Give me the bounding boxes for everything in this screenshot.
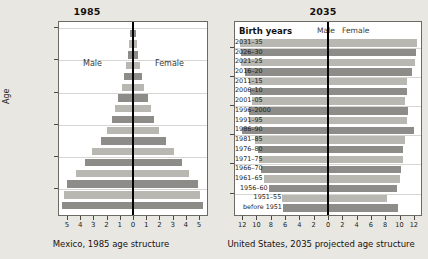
right-y-tick <box>230 193 234 194</box>
bar-female <box>133 202 203 209</box>
right-x-tick <box>271 216 272 220</box>
right-birth-year-label: before 1951 <box>235 204 282 211</box>
right-x-tick <box>400 216 401 220</box>
right-y-tick <box>230 163 234 164</box>
bar-male <box>269 185 328 192</box>
right-x-tick <box>314 216 315 220</box>
right-x-tick <box>371 216 372 220</box>
bar-female <box>133 116 154 123</box>
right-caption: United States, 2035 projected age struct… <box>214 239 428 249</box>
bar-male <box>107 127 133 134</box>
left-caption: Mexico, 1985 age structure <box>4 239 218 249</box>
left-x-tick-label: 5 <box>189 221 209 229</box>
right-x-tick <box>414 216 415 220</box>
bar-female <box>328 78 407 85</box>
bar-male <box>64 191 133 198</box>
bar-female <box>328 175 400 182</box>
right-birth-year-label: 2006–10 <box>235 87 249 94</box>
right-x-tick <box>285 216 286 220</box>
right-x-tick-label: 12 <box>404 221 424 229</box>
bar-male <box>112 116 133 123</box>
left-x-tick <box>80 216 81 220</box>
right-birth-year-label: 2026–30 <box>235 49 241 56</box>
bar-female <box>328 39 417 46</box>
bar-female <box>133 94 148 101</box>
right-birth-year-label: 1951–55 <box>235 194 281 201</box>
left-center-axis <box>132 22 134 215</box>
right-birth-year-label: 1956–60 <box>235 185 268 192</box>
bar-female <box>328 68 412 75</box>
left-x-tick <box>159 216 160 220</box>
bar-female <box>328 59 415 66</box>
bar-male <box>259 156 328 163</box>
bar-female <box>133 84 144 91</box>
bar-female <box>133 180 198 187</box>
panel-us-2035: 2035 Birth years Male Female before 1951… <box>214 0 428 259</box>
bar-female <box>133 73 142 80</box>
right-x-tick <box>357 216 358 220</box>
bar-female <box>328 117 407 124</box>
bar-male <box>92 148 133 155</box>
bar-male <box>258 146 328 153</box>
bar-female <box>328 156 403 163</box>
right-birth-year-label: 2001–05 <box>235 97 251 104</box>
bar-female <box>328 195 387 202</box>
bar-female <box>328 185 397 192</box>
figure-root: 1985 Age 0-45-910-1415-1920-2425-2930-34… <box>0 0 428 259</box>
bar-male <box>85 159 133 166</box>
bar-male <box>261 166 328 173</box>
bar-female <box>133 170 189 177</box>
bar-female <box>328 166 401 173</box>
left-x-tick <box>146 216 147 220</box>
left-x-tick <box>173 216 174 220</box>
right-birth-year-label: 2016–20 <box>235 68 244 75</box>
bar-female <box>133 191 200 198</box>
right-birth-year-label: 1991–95 <box>235 117 248 124</box>
bar-male <box>255 136 328 143</box>
bar-female <box>328 97 405 104</box>
right-birth-year-label: 1981–85 <box>235 136 254 143</box>
right-birth-year-label: 1976–80 <box>235 146 257 153</box>
right-y-tick <box>230 47 234 48</box>
right-x-tick <box>342 216 343 220</box>
bar-female <box>328 107 408 114</box>
right-birth-year-label: 1966–70 <box>235 165 260 172</box>
left-plot-area: Male Female <box>58 21 208 216</box>
right-y-tick <box>230 76 234 77</box>
bar-female <box>133 148 174 155</box>
left-chart-title: 1985 <box>0 6 194 17</box>
bar-male <box>62 202 133 209</box>
right-x-tick <box>385 216 386 220</box>
bar-female <box>328 146 403 153</box>
right-female-label: Female <box>342 26 369 35</box>
left-x-tick <box>133 216 134 220</box>
right-birth-year-label: 1961–65 <box>235 175 263 182</box>
left-x-tick <box>107 216 108 220</box>
right-x-tick <box>242 216 243 220</box>
left-male-label: Male <box>83 59 102 68</box>
bar-male <box>283 204 328 211</box>
right-birth-year-label: 2011–15 <box>235 78 248 85</box>
right-birth-year-label: 2031–35 <box>235 39 241 46</box>
left-female-label: Female <box>155 59 184 68</box>
right-x-tick <box>299 216 300 220</box>
right-birth-year-label: 1996–2000 <box>235 107 248 114</box>
bar-male <box>282 195 328 202</box>
bar-female <box>133 62 140 69</box>
right-x-tick <box>328 216 329 220</box>
bar-female <box>133 105 151 112</box>
panel-mexico-1985: 1985 Age 0-45-910-1415-1920-2425-2930-34… <box>0 0 214 259</box>
bar-male <box>118 94 133 101</box>
bar-female <box>328 127 414 134</box>
bar-female <box>328 204 398 211</box>
bar-male <box>115 105 133 112</box>
right-male-label: Male <box>317 26 335 35</box>
bar-male <box>252 97 328 104</box>
right-birth-year-label: 2021–25 <box>235 58 241 65</box>
right-chart-title: 2035 <box>216 6 428 17</box>
left-x-tick <box>120 216 121 220</box>
left-x-tick <box>67 216 68 220</box>
bar-female <box>328 136 405 143</box>
left-x-tick <box>199 216 200 220</box>
left-x-tick <box>93 216 94 220</box>
